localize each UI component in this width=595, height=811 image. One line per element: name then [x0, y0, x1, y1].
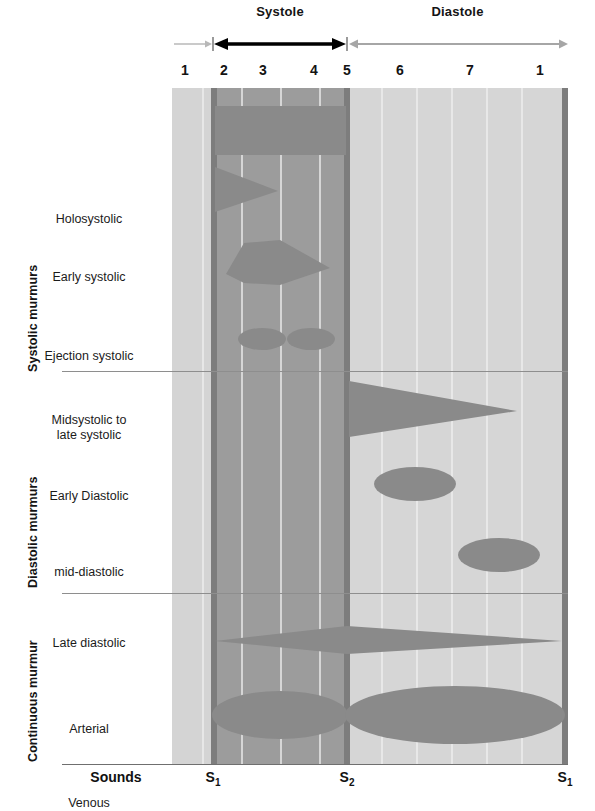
- row-label-early-diastolic: Early Diastolic: [14, 489, 164, 504]
- row-label-holosystolic: Holosystolic: [14, 212, 164, 227]
- shape-midsystolic-lens-2: [287, 328, 335, 350]
- shape-late-diastolic: [458, 538, 540, 572]
- sounds-axis-label: Sounds: [62, 769, 170, 785]
- phase-label-diastole: Diastole: [347, 4, 568, 19]
- diastole-arrow-icon: [349, 40, 568, 49]
- column-number-2: 2: [212, 62, 236, 78]
- row-label-ejection-systolic: Ejection systolic: [14, 349, 164, 364]
- column-number-row: 1 2 3 4 5 6 7 1: [0, 62, 595, 84]
- row-label-midsystolic-to-late-systolic: Midsystolic to late systolic: [14, 413, 164, 443]
- column-number-7: 7: [458, 62, 482, 78]
- row-label-column: Holosystolic Early systolic Ejection sys…: [0, 88, 170, 764]
- row-label-mid-diastolic: mid-diastolic: [14, 565, 164, 580]
- column-number-1b: 1: [528, 62, 552, 78]
- shape-mid-diastolic: [374, 467, 456, 501]
- axis-baseline: [62, 764, 568, 765]
- sound-bar-s1-end: [562, 88, 568, 764]
- row-label-early-systolic: Early systolic: [14, 270, 164, 285]
- sound-marker-s2: S2: [332, 769, 362, 788]
- murmur-plot-svg: [170, 88, 568, 764]
- phase-label-row: Systole Diastole: [0, 4, 595, 26]
- row-label-arterial: Arterial: [14, 722, 164, 737]
- systole-double-arrow-icon: [213, 37, 347, 51]
- sound-marker-s1-end-sub: 1: [567, 777, 573, 788]
- column-number-4: 4: [302, 62, 326, 78]
- band-pre-systole: [172, 88, 213, 764]
- sound-marker-s1-start: S1: [198, 769, 228, 788]
- column-number-1a: 1: [173, 62, 197, 78]
- divider-systolic-diastolic: [62, 371, 568, 372]
- sound-marker-s1-start-sub: 1: [215, 777, 221, 788]
- sound-marker-s2-letter: S: [340, 769, 349, 785]
- sound-marker-s1-end: S1: [550, 769, 580, 788]
- phase-arrow-row: [0, 36, 595, 52]
- column-number-5: 5: [335, 62, 359, 78]
- phase-label-systole: Systole: [213, 4, 347, 19]
- column-number-6: 6: [388, 62, 412, 78]
- sounds-axis-row: Sounds S1 S2 S1: [0, 764, 595, 798]
- sound-marker-s2-sub: 2: [349, 777, 355, 788]
- phase-arrows-svg: [0, 36, 595, 52]
- row-label-venous: Venous: [14, 796, 164, 811]
- sound-marker-s1-start-letter: S: [206, 769, 215, 785]
- sound-marker-s1-end-letter: S: [558, 769, 567, 785]
- shape-holosystolic: [215, 106, 346, 155]
- divider-diastolic-continuous: [62, 593, 568, 594]
- shape-venous-systolic: [212, 691, 348, 739]
- row-label-late-diastolic: Late diastolic: [14, 636, 164, 651]
- shape-midsystolic-lens-1: [238, 328, 286, 350]
- column-number-3: 3: [251, 62, 275, 78]
- murmur-plot: [170, 88, 568, 764]
- pre-systole-arrow-icon: [174, 41, 212, 48]
- shape-venous-diastolic: [345, 686, 565, 744]
